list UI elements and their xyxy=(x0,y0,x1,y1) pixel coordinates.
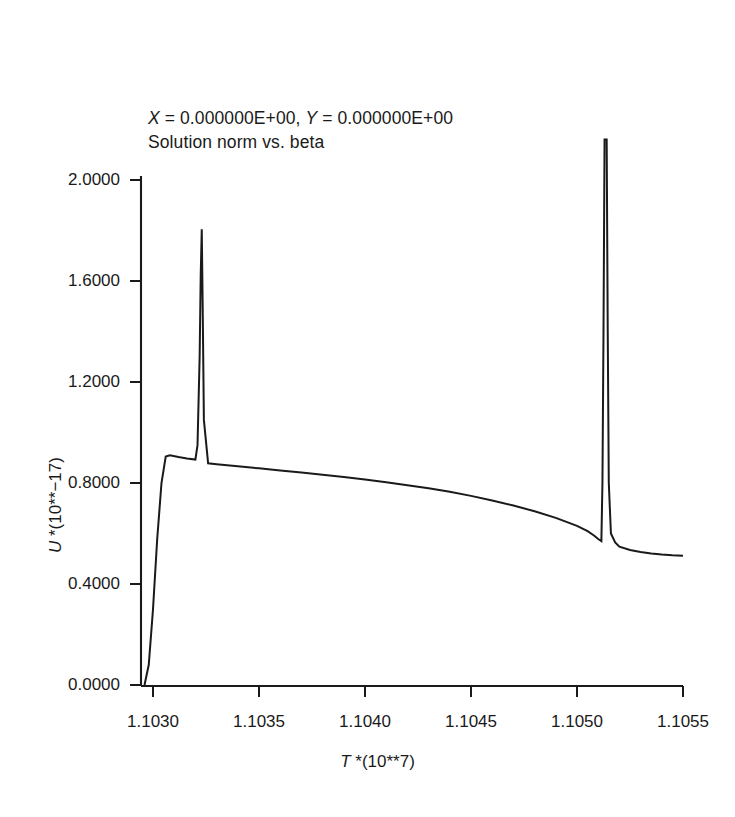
axis-lines xyxy=(141,176,683,686)
y-axis-ticks xyxy=(130,180,141,685)
plot-area xyxy=(0,0,735,817)
data-series-solution-norm xyxy=(145,140,683,685)
x-axis-ticks xyxy=(153,686,683,697)
figure-canvas: X = 0.000000E+00, Y = 0.000000E+00 Solut… xyxy=(0,0,735,817)
